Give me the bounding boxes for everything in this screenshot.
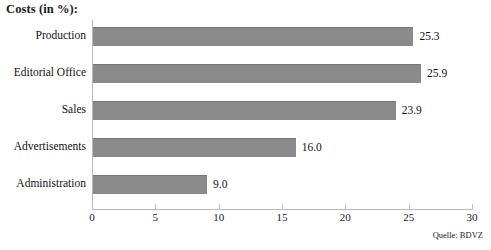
bar-value-label: 23.9	[402, 104, 422, 116]
category-label: Editorial Office	[14, 66, 86, 78]
bar-value-label: 16.0	[302, 141, 322, 153]
x-tick-label: 30	[452, 211, 491, 223]
bar	[93, 175, 207, 194]
bar-row: Editorial Office25.9	[0, 64, 491, 83]
x-tick-mark	[219, 204, 220, 209]
bar-row: Advertisements16.0	[0, 138, 491, 157]
bar-value-label: 9.0	[213, 178, 227, 190]
x-tick-label: 10	[199, 211, 239, 223]
x-tick-label: 25	[389, 211, 429, 223]
bar-row: Production25.3	[0, 27, 491, 46]
chart-title: Costs (in %):	[6, 2, 78, 17]
category-label: Sales	[62, 103, 86, 115]
x-tick-mark	[92, 204, 93, 209]
category-label: Advertisements	[14, 140, 86, 152]
bar-chart: Costs (in %): 051015202530 Production25.…	[0, 0, 491, 250]
bar	[93, 64, 421, 83]
bar	[93, 101, 396, 120]
x-axis-line	[92, 209, 473, 210]
category-label: Production	[36, 29, 86, 41]
bar-value-label: 25.3	[419, 30, 439, 42]
bar	[93, 27, 413, 46]
x-tick-label: 0	[72, 211, 112, 223]
x-tick-label: 15	[262, 211, 302, 223]
x-tick-label: 20	[325, 211, 365, 223]
x-tick-mark	[155, 204, 156, 209]
x-tick-label: 5	[135, 211, 175, 223]
x-tick-mark	[409, 204, 410, 209]
bar-row: Administration9.0	[0, 175, 491, 194]
x-tick-mark	[472, 204, 473, 209]
x-tick-mark	[282, 204, 283, 209]
source-attribution: Quelle: BDVZ	[433, 230, 483, 240]
bar-row: Sales23.9	[0, 101, 491, 120]
bar-value-label: 25.9	[427, 67, 447, 79]
bar	[93, 138, 296, 157]
x-tick-mark	[345, 204, 346, 209]
category-label: Administration	[16, 177, 86, 189]
